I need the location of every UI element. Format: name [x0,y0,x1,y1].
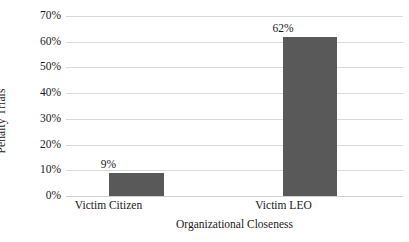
y-axis-tick-labels: 70% 60% 50% 40% 30% 20% 10% 0% [0,0,61,242]
y-axis-tick-label: 40% [1,87,61,99]
bar-victim-leo[interactable] [283,37,337,196]
gridline-60 [66,42,403,43]
gridline-20 [66,145,403,146]
gridline-0-baseline [66,196,403,197]
x-axis-category-label-victim-citizen: Victim Citizen [54,199,163,212]
bar-value-label-victim-leo: 62% [256,22,310,34]
y-axis-tick-label: 20% [1,139,61,151]
bar-chart: Penalty Trials 70% 60% 50% 40% 30% 20% 1… [0,0,409,242]
x-axis-title: Organizational Closeness [66,218,403,230]
y-axis-tick-label: 10% [1,165,61,177]
gridline-50 [66,67,403,68]
gridline-10 [66,170,403,171]
bar-victim-citizen[interactable] [109,173,164,196]
y-axis-tick-label: 30% [1,113,61,125]
bar-value-label-victim-citizen: 9% [81,158,136,170]
y-axis-tick-label: 60% [1,36,61,48]
y-axis-tick-label: 50% [1,62,61,74]
gridline-70 [66,16,403,17]
y-axis-tick-label: 70% [1,10,61,22]
gridline-30 [66,119,403,120]
gridline-40 [66,93,403,94]
x-axis-category-label-victim-leo: Victim LEO [229,199,338,212]
y-axis-tick-label: 0% [1,190,61,202]
